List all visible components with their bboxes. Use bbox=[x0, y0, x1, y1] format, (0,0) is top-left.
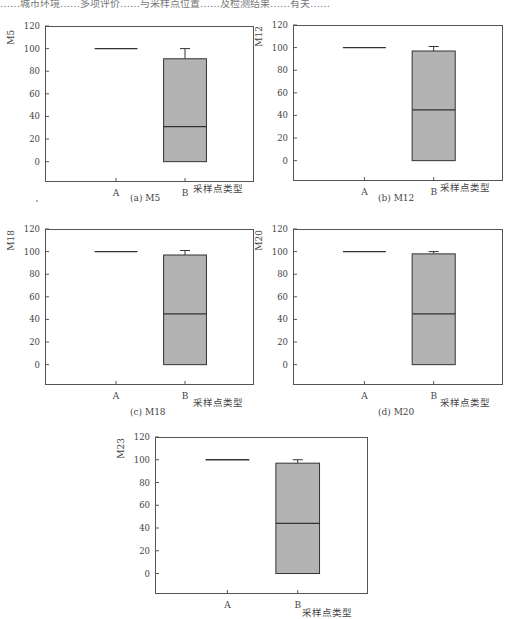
panel-caption: (b) M12 bbox=[378, 193, 414, 203]
x-tick-label: B bbox=[430, 391, 437, 401]
y-tick-label: 120 bbox=[272, 224, 288, 234]
box-plot: 020406080100120M23AB bbox=[155, 437, 368, 594]
x-tick-label: A bbox=[360, 391, 368, 401]
y-tick-label: 60 bbox=[139, 500, 150, 510]
y-tick-label: 80 bbox=[277, 65, 288, 75]
y-tick-label: 100 bbox=[272, 43, 288, 53]
chart-panel-m12: 020406080100120M12AB bbox=[293, 25, 503, 181]
x-axis-title: 采样点类型 bbox=[440, 180, 490, 194]
chart-panel-m20: 020406080100120M20AB bbox=[293, 229, 503, 385]
plot-frame bbox=[46, 27, 254, 182]
y-axis-label: M20 bbox=[254, 230, 264, 251]
y-tick-label: 60 bbox=[29, 89, 40, 99]
y-tick-label: 80 bbox=[139, 478, 150, 488]
y-tick-label: 80 bbox=[29, 269, 40, 279]
box-iqr bbox=[412, 51, 455, 161]
stray-dot bbox=[36, 200, 38, 202]
x-tick-label: B bbox=[182, 188, 189, 198]
y-tick-label: 20 bbox=[277, 133, 288, 143]
box-iqr bbox=[164, 255, 207, 365]
plot-frame bbox=[46, 230, 254, 385]
box-iqr bbox=[164, 59, 207, 162]
box-iqr bbox=[276, 463, 320, 573]
y-tick-label: 40 bbox=[277, 110, 288, 120]
y-tick-label: 100 bbox=[134, 455, 150, 465]
y-tick-label: 100 bbox=[24, 44, 40, 54]
y-tick-label: 40 bbox=[277, 314, 288, 324]
y-tick-label: 0 bbox=[35, 157, 40, 167]
y-tick-label: 20 bbox=[139, 546, 150, 556]
y-tick-label: 20 bbox=[29, 134, 40, 144]
y-axis-label: M5 bbox=[6, 30, 16, 45]
x-tick-label: A bbox=[112, 188, 120, 198]
y-tick-label: 0 bbox=[145, 569, 150, 579]
y-tick-label: 20 bbox=[277, 337, 288, 347]
y-tick-label: 60 bbox=[277, 292, 288, 302]
panel-caption: (a) M5 bbox=[130, 193, 160, 203]
plot-frame bbox=[294, 26, 503, 181]
box-iqr bbox=[412, 254, 455, 365]
x-tick-label: A bbox=[223, 600, 231, 610]
y-tick-label: 120 bbox=[134, 432, 150, 442]
y-tick-label: 40 bbox=[29, 314, 40, 324]
chart-panel-m23: 020406080100120M23AB bbox=[155, 437, 368, 594]
y-axis-label: M12 bbox=[254, 26, 264, 47]
box-plot: 020406080100120M5AB bbox=[45, 26, 254, 182]
y-axis-label: M23 bbox=[116, 438, 126, 459]
y-tick-label: 0 bbox=[283, 360, 288, 370]
panel-caption: (c) M18 bbox=[130, 407, 166, 417]
y-tick-label: 0 bbox=[283, 156, 288, 166]
y-axis-label: M18 bbox=[6, 230, 16, 251]
y-tick-label: 80 bbox=[277, 269, 288, 279]
y-tick-label: 40 bbox=[29, 111, 40, 121]
y-tick-label: 60 bbox=[29, 292, 40, 302]
page-header-fragment: ……城市环境……多项评价……与采样点位置……及检测结果……有关…… bbox=[0, 0, 511, 8]
chart-panel-m18: 020406080100120M18AB bbox=[45, 229, 254, 385]
y-tick-label: 120 bbox=[24, 21, 40, 31]
y-tick-label: 120 bbox=[272, 20, 288, 30]
x-axis-title: 采样点类型 bbox=[193, 395, 243, 409]
y-tick-label: 40 bbox=[139, 523, 150, 533]
x-axis-title: 采样点类型 bbox=[193, 181, 243, 195]
x-axis-title: 采样点类型 bbox=[440, 395, 490, 409]
y-tick-label: 80 bbox=[29, 66, 40, 76]
plot-frame bbox=[156, 438, 368, 594]
y-tick-label: 100 bbox=[272, 247, 288, 257]
y-tick-label: 0 bbox=[35, 360, 40, 370]
x-tick-label: A bbox=[360, 187, 368, 197]
x-axis-title: 采样点类型 bbox=[302, 605, 352, 619]
box-plot: 020406080100120M20AB bbox=[293, 229, 503, 385]
box-plot: 020406080100120M18AB bbox=[45, 229, 254, 385]
chart-panel-m5: 020406080100120M5AB bbox=[45, 26, 254, 182]
y-tick-label: 120 bbox=[24, 224, 40, 234]
y-tick-label: 20 bbox=[29, 337, 40, 347]
panel-caption: (d) M20 bbox=[378, 407, 414, 417]
x-tick-label: A bbox=[112, 391, 120, 401]
x-tick-label: B bbox=[294, 600, 301, 610]
y-tick-label: 100 bbox=[24, 247, 40, 257]
x-tick-label: B bbox=[182, 391, 189, 401]
plot-frame bbox=[294, 230, 503, 385]
x-tick-label: B bbox=[430, 187, 437, 197]
box-plot: 020406080100120M12AB bbox=[293, 25, 503, 181]
y-tick-label: 60 bbox=[277, 88, 288, 98]
